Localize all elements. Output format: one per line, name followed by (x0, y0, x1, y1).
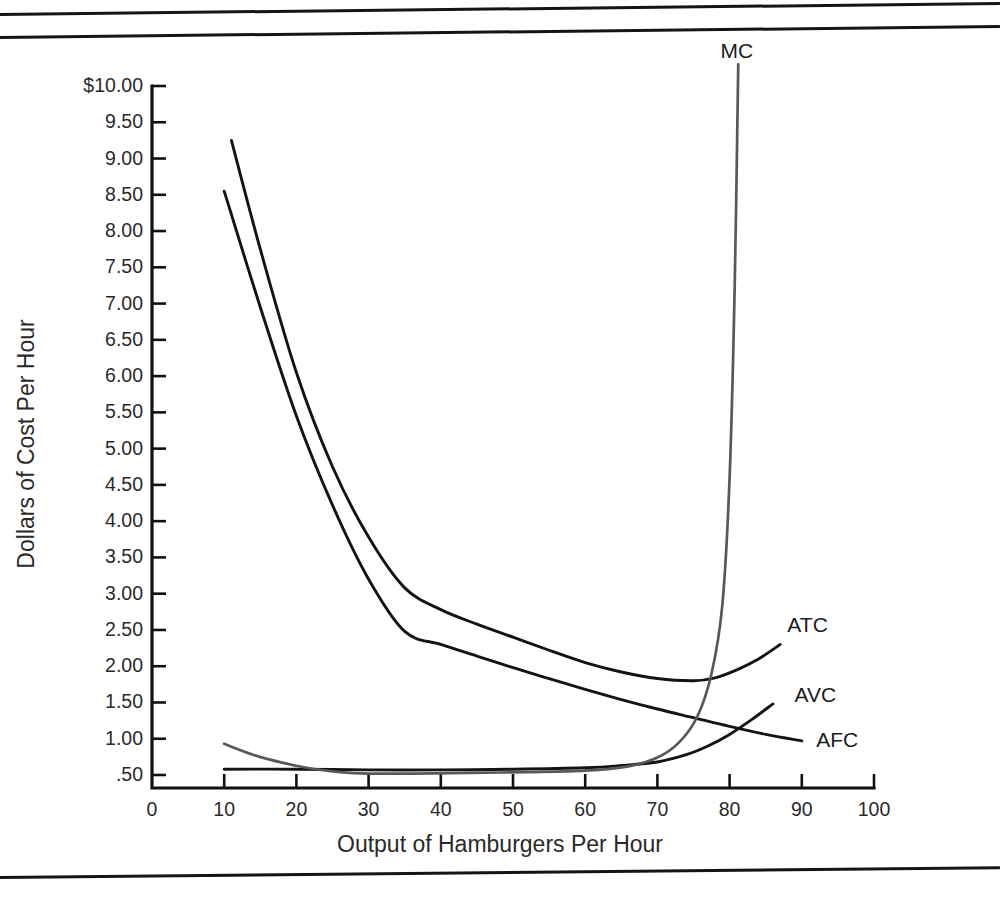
x-tick-label: 0 (147, 800, 158, 820)
y-tick-label: 1.00 (105, 729, 143, 749)
y-tick-label: 3.00 (105, 584, 143, 604)
curve-label-afc: AFC (816, 728, 858, 749)
y-tick-label: 6.50 (105, 330, 143, 350)
y-tick-label: 8.00 (105, 221, 143, 241)
y-tick-label: 3.50 (105, 548, 143, 568)
y-tick-label: 9.00 (105, 149, 143, 169)
curve-avc (224, 704, 773, 770)
x-axis-title: Output of Hamburgers Per Hour (337, 831, 663, 858)
y-tick-label: 5.00 (105, 439, 143, 459)
x-tick-label: 70 (647, 800, 669, 820)
y-tick-label: 7.50 (105, 258, 143, 278)
page-rule-top-1 (0, 2, 1000, 16)
curve-label-atc: ATC (787, 614, 827, 635)
y-tick-label: 9.50 (105, 113, 143, 133)
curve-label-avc: AVC (795, 683, 837, 704)
x-tick-label: 40 (430, 800, 452, 820)
x-tick-label: 50 (502, 800, 524, 820)
x-tick-label: 100 (858, 800, 891, 820)
page-rule-top-2 (0, 25, 1000, 39)
x-tick-label: 80 (719, 800, 741, 820)
y-tick-label: 7.00 (105, 294, 143, 314)
axis-ticks (152, 86, 874, 788)
plot-area (0, 44, 987, 844)
y-axis-title: Dollars of Cost Per Hour (13, 319, 40, 568)
x-tick-label: 60 (574, 800, 596, 820)
y-tick-label: 2.50 (105, 620, 143, 640)
curve-atc (231, 140, 780, 680)
axes (152, 86, 874, 788)
y-tick-label: 6.00 (105, 366, 143, 386)
y-tick-label: 8.50 (105, 185, 143, 205)
axis-lines (152, 86, 874, 788)
x-tick-label: 10 (213, 800, 235, 820)
y-tick-label: 1.50 (105, 693, 143, 713)
page-rule-bottom (0, 866, 1000, 879)
cost-curves-chart: .501.001.502.002.503.003.504.004.505.005… (0, 44, 987, 844)
y-tick-label: 5.50 (105, 403, 143, 423)
x-tick-label: 30 (358, 800, 380, 820)
y-tick-label: 4.00 (105, 511, 143, 531)
curve-mc (224, 64, 738, 773)
curve-label-mc: MC (720, 40, 753, 61)
y-tick-label: .50 (116, 765, 143, 785)
y-tick-label: $10.00 (83, 76, 143, 96)
x-tick-label: 90 (791, 800, 813, 820)
y-tick-label: 2.00 (105, 656, 143, 676)
y-tick-label: 4.50 (105, 475, 143, 495)
curves (224, 64, 802, 773)
x-tick-label: 20 (286, 800, 308, 820)
